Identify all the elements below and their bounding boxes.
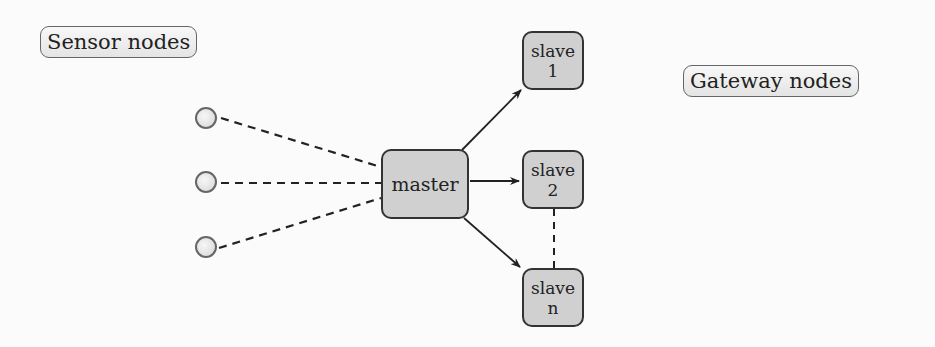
edge-master-slave1 — [462, 90, 521, 150]
master-label: master — [391, 174, 458, 194]
slave-n-index: n — [548, 298, 559, 318]
edge-master-slaven — [464, 218, 520, 267]
gateway-nodes-label: Gateway nodes — [683, 65, 859, 97]
slave-node-2: slave 2 — [522, 150, 584, 209]
slave-1-index: 1 — [548, 61, 559, 81]
sensor-node-2 — [195, 171, 217, 193]
edge-sensor3-master — [219, 198, 381, 248]
slave-2-index: 2 — [548, 180, 559, 200]
slave-node-1: slave 1 — [522, 31, 584, 90]
slave-n-label: slave — [531, 278, 575, 298]
slave-2-label: slave — [531, 160, 575, 180]
sensor-nodes-label: Sensor nodes — [40, 26, 197, 58]
sensor-node-3 — [195, 236, 217, 258]
master-node: master — [381, 149, 469, 219]
sensor-node-1 — [195, 107, 217, 129]
slave-1-label: slave — [531, 41, 575, 61]
slave-node-n: slave n — [522, 268, 584, 327]
edge-sensor1-master — [221, 118, 381, 167]
